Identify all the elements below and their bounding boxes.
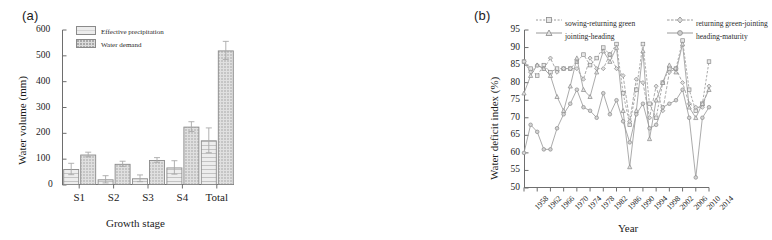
legend-label-returning-green-jointing: returning green-jointing	[696, 19, 768, 28]
panel-b-plot-area	[524, 30, 709, 188]
panel-a-y-tick-label: 100	[36, 153, 50, 163]
panel-b-x-tick-label: 2014	[718, 194, 736, 212]
panel-b-y-tick-label: 75	[504, 94, 520, 104]
panel-a-y-tick-label: 500	[36, 50, 50, 60]
legend-item-sowing-returning-green: sowing-returning green	[536, 16, 635, 28]
panel-b-y-tick-label: 65	[504, 129, 520, 139]
panel-b-label: (b)	[474, 8, 491, 23]
panel-b-y-tick-label: 90	[504, 42, 520, 52]
panel-b-y-tick-label: 85	[504, 59, 520, 69]
panel-a-label: (a)	[22, 8, 39, 23]
panel-a-y-tick-label: 0	[48, 179, 53, 189]
panel-a-y-tick-label: 400	[36, 76, 50, 86]
panel-b-y-tick-label: 70	[504, 112, 520, 122]
legend-item-returning-green-jointing: returning green-jointing	[667, 16, 768, 28]
panel-b-y-tick-label: 80	[504, 77, 520, 87]
panel-a-x-tick-label: Total	[203, 191, 231, 203]
panel-a-y-tick-label: 200	[36, 127, 50, 137]
panel-b-y-tick-label: 55	[504, 164, 520, 174]
panel-a-x-tick-label: S2	[100, 191, 128, 203]
panel-a-plot-area	[62, 30, 234, 185]
panel-b-line-chart: (b) Water deficit index (%) Year sowing-…	[236, 0, 536, 240]
panel-a-y-tick-label: 300	[36, 102, 50, 112]
panel-a-x-axis-title: Growth stage	[106, 217, 165, 229]
panel-a-y-tick-label: 600	[36, 24, 50, 34]
panel-a-y-axis-title: Water volume (mm)	[16, 76, 28, 165]
panel-b-y-axis-title: Water deficit index (%)	[488, 77, 500, 180]
panel-b-y-tick-label: 95	[504, 24, 520, 34]
panel-b-y-tick-label: 50	[504, 182, 520, 192]
panel-a-x-tick-label: S4	[168, 191, 196, 203]
panel-b-x-axis-title: Year	[618, 222, 638, 234]
legend-key-returning-green-jointing	[667, 16, 693, 24]
panel-a-bar-chart: (a) Water volume (mm) Growth stage Effec…	[0, 0, 268, 240]
legend-label-sowing-returning-green: sowing-returning green	[565, 19, 635, 28]
panel-a-x-tick-label: S1	[65, 191, 93, 203]
panel-a-x-tick-label: S3	[134, 191, 162, 203]
legend-key-sowing-returning-green	[536, 16, 562, 24]
panel-b-y-tick-label: 60	[504, 147, 520, 157]
